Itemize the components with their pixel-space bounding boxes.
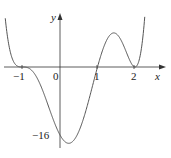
x-axis-arrow-icon <box>159 65 166 70</box>
function-curve <box>5 17 145 143</box>
tick-label-neg1: −1 <box>13 70 25 82</box>
y-axis-arrow-icon <box>58 13 63 20</box>
tick-label-0: 0 <box>53 70 59 82</box>
function-graph: y x −1 0 1 2 −16 <box>0 0 171 158</box>
x-axis-label: x <box>154 70 160 82</box>
tick-label-1: 1 <box>94 70 100 82</box>
tick-label-2: 2 <box>131 70 137 82</box>
tick-label-neg16: −16 <box>32 129 50 141</box>
y-axis-label: y <box>50 11 56 23</box>
